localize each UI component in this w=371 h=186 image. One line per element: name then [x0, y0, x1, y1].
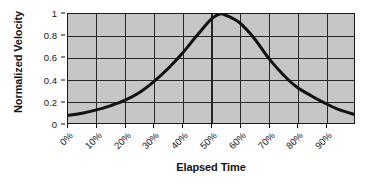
x-tick-mark	[125, 124, 126, 128]
y-tick-label: 0.2	[44, 96, 57, 107]
x-tick-mark	[326, 124, 327, 128]
x-tick-mark	[67, 124, 68, 128]
y-tick-label: 0.6	[44, 52, 57, 63]
y-tick-label: 1	[52, 8, 57, 19]
y-tick-mark	[61, 101, 65, 102]
y-tick-label: 0	[52, 119, 57, 130]
y-axis-title: Normalized Velocity	[8, 0, 28, 124]
y-tick-mark	[61, 124, 65, 125]
x-tick-mark	[96, 124, 97, 128]
x-tick-mark	[269, 124, 270, 128]
x-tick-mark	[240, 124, 241, 128]
x-tick-mark	[153, 124, 154, 128]
x-axis-title: Elapsed Time	[67, 161, 355, 173]
curve-svg	[68, 14, 354, 123]
y-tick-mark	[61, 35, 65, 36]
y-tick-mark	[61, 13, 65, 14]
y-tick-label: 0.4	[44, 74, 57, 85]
velocity-curve	[68, 14, 354, 116]
y-tick-mark	[61, 57, 65, 58]
plot-area	[67, 13, 355, 124]
chart-figure: Normalized Velocity 00.20.40.60.81 0%10%…	[0, 0, 371, 186]
y-tick-label: 0.8	[44, 30, 57, 41]
y-axis-tick-labels: 00.20.40.60.81	[28, 13, 61, 124]
y-tick-mark	[61, 79, 65, 80]
x-tick-mark	[211, 124, 212, 128]
x-axis-tick-labels: 0%10%20%30%40%50%60%70%80%90%	[67, 124, 355, 158]
x-tick-mark	[182, 124, 183, 128]
x-tick-mark	[297, 124, 298, 128]
